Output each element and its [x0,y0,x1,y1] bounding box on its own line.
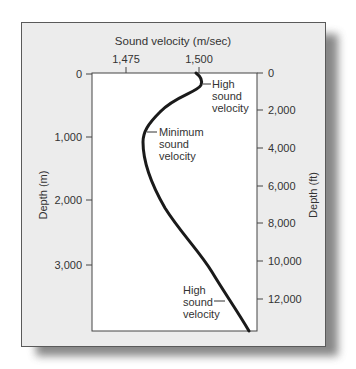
chart-title: Sound velocity (m/sec) [115,35,231,47]
right-axis: 0 2,000 4,000 6,000 8,000 10,000 12,000 [257,67,302,305]
y-right-axis-title: Depth (ft) [307,172,319,218]
y-left-axis-title: Depth (m) [37,171,49,220]
sound-velocity-chart: Sound velocity (m/sec) 1,475 1,500 0 1,0… [0,0,356,369]
y-right-tick-label: 0 [268,67,274,79]
y-left-tick-label: 0 [76,68,82,80]
x-tick-label: 1,475 [112,53,140,65]
left-axis: 0 1,000 2,000 3,000 [54,68,92,271]
y-right-tick-label: 4,000 [268,142,296,154]
y-right-tick-label: 6,000 [268,180,296,192]
y-right-tick-label: 12,000 [268,293,302,305]
y-right-tick-label: 10,000 [268,255,302,267]
y-left-tick-label: 1,000 [54,131,82,143]
x-tick-label: 1,500 [185,53,213,65]
y-left-tick-label: 3,000 [54,259,82,271]
y-right-tick-label: 8,000 [268,217,296,229]
y-right-tick-label: 2,000 [268,104,296,116]
y-left-tick-label: 2,000 [54,194,82,206]
